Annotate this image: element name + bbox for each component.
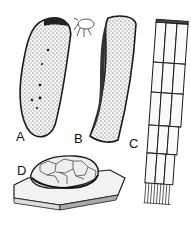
label-c: C <box>129 136 138 151</box>
label-b: B <box>74 131 83 146</box>
fringe <box>143 183 171 205</box>
small-organism <box>74 18 94 37</box>
panel-c: C <box>129 19 188 205</box>
panel-b: B <box>74 16 136 146</box>
horn-tube <box>90 16 136 142</box>
panel-d: D <box>14 156 125 210</box>
panel-a: A <box>16 18 71 144</box>
label-d: D <box>17 163 26 178</box>
oval-body <box>20 18 71 137</box>
label-a: A <box>16 129 25 144</box>
scientific-illustration: A B C <box>0 0 191 235</box>
cell-column <box>145 22 188 185</box>
